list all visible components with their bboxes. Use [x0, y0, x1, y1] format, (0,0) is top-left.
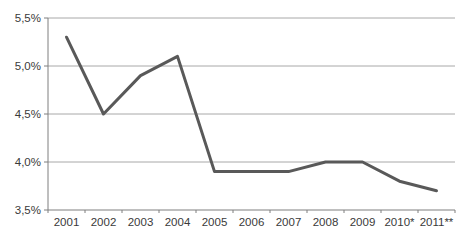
- x-tick-label: 2004: [165, 216, 191, 228]
- x-tick-label: 2003: [128, 216, 154, 228]
- chart-container: 5,5%5,0%4,5%4,0%3,5%20012002200320042005…: [0, 0, 470, 239]
- y-tick-label: 4,5%: [15, 108, 41, 120]
- x-tick-label: 2009: [350, 216, 376, 228]
- x-tick-label: 2007: [276, 216, 302, 228]
- x-tick-label: 2010*: [384, 216, 415, 228]
- x-tick-label: 2005: [202, 216, 228, 228]
- y-tick-label: 4,0%: [15, 156, 41, 168]
- line-chart: 5,5%5,0%4,5%4,0%3,5%20012002200320042005…: [0, 0, 470, 239]
- x-tick-label: 2006: [239, 216, 265, 228]
- x-tick-label: 2001: [54, 216, 80, 228]
- y-tick-label: 5,5%: [15, 12, 41, 24]
- x-tick-label: 2008: [313, 216, 339, 228]
- x-tick-label: 2002: [91, 216, 117, 228]
- y-tick-label: 3,5%: [15, 204, 41, 216]
- x-tick-label: 2011**: [420, 216, 454, 228]
- y-tick-label: 5,0%: [15, 60, 41, 72]
